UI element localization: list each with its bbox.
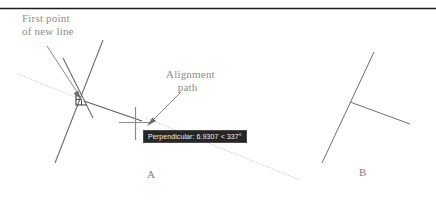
existing-line-a-cross <box>63 58 93 118</box>
leader-alignment-path <box>147 92 181 126</box>
existing-line-a-steep <box>55 40 103 163</box>
figure-label-b: B <box>359 166 367 178</box>
new-perpendicular-line-b <box>350 102 410 124</box>
callout-alignment-path: Alignment path <box>166 68 215 93</box>
callout-first-point: First point of new line <box>22 12 74 37</box>
alignment-path-upper-left <box>18 74 80 99</box>
snap-tooltip: Perpendicular: 6.9307 < 337° <box>143 130 247 143</box>
leader-first-point <box>47 46 81 99</box>
figure-page: First point of new line Alignment path P… <box>0 0 436 204</box>
figure-label-a: A <box>147 168 155 180</box>
alignment-path-lower-right <box>146 118 300 180</box>
